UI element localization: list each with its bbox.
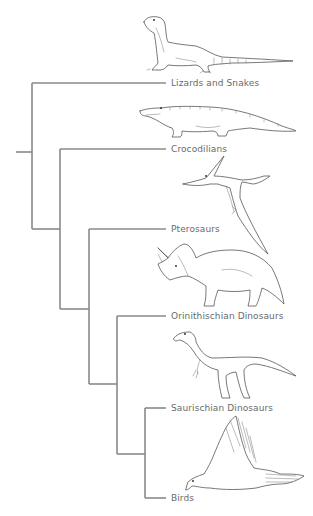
crocodile-illustration [140, 106, 296, 137]
lizard-illustration [144, 17, 293, 73]
bird-illustration [186, 416, 304, 490]
theropod-illustration [174, 332, 296, 398]
taxon-label-birds: Birds [171, 493, 194, 504]
pterosaur-illustration [183, 156, 270, 254]
cladogram-tree [0, 0, 313, 516]
triceratops-illustration [158, 244, 284, 306]
taxon-label-saurischians: Saurischian Dinosaurs [171, 403, 273, 414]
taxon-label-lizards: Lizards and Snakes [171, 78, 259, 89]
taxon-label-crocodilians: Crocodilians [171, 144, 227, 155]
taxon-label-ornithischians: Orinithischian Dinosaurs [171, 311, 283, 322]
taxon-label-pterosaurs: Pterosaurs [171, 224, 220, 235]
